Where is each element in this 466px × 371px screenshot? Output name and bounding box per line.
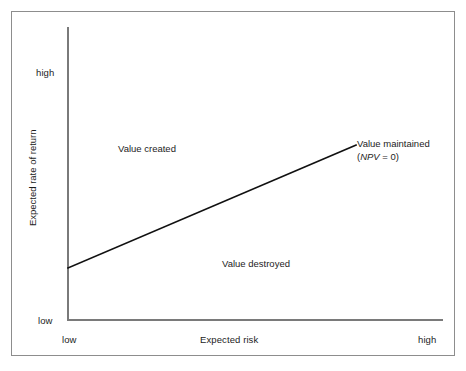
x-axis-low-label: low [62, 335, 77, 345]
y-axis-line [67, 27, 69, 321]
region-label-value-created: Value created [118, 143, 176, 156]
x-axis-line [67, 319, 443, 321]
annotation-npv-rest: = 0) [380, 151, 399, 162]
region-label-value-destroyed: Value destroyed [222, 258, 290, 271]
x-axis-title: Expected risk [200, 335, 258, 345]
y-axis-high-label: high [36, 68, 54, 78]
annotation-value-maintained: Value maintained (NPV = 0) [357, 138, 430, 164]
x-axis-high-label: high [418, 335, 436, 345]
figure-canvas: high low Expected rate of return low hig… [0, 0, 466, 371]
y-axis-low-label: low [38, 316, 53, 326]
annotation-npv-symbol: NPV [360, 151, 380, 162]
y-axis-title: Expected rate of return [28, 123, 38, 233]
annotation-value-maintained-line1: Value maintained [357, 138, 430, 149]
figure-border [11, 11, 455, 356]
